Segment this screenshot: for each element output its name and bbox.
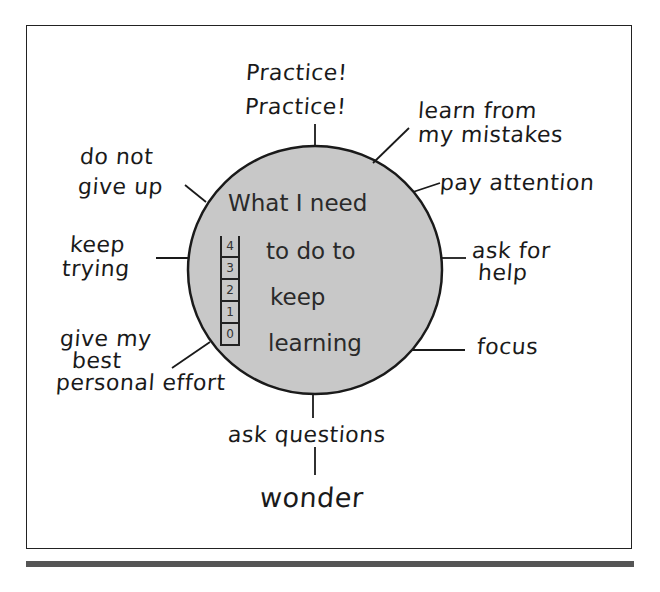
label-learn-2: my mistakes: [417, 124, 564, 146]
label-wonder: wonder: [259, 484, 364, 511]
spoke-line-give-best: [172, 342, 210, 368]
label-ask-help-2: help: [477, 262, 528, 284]
center-line-2: to do to: [266, 240, 355, 263]
center-line-4: learning: [268, 332, 362, 355]
ladder-step-1: 1: [220, 302, 240, 324]
ladder-step-3: 3: [220, 258, 240, 280]
label-keep-trying-1: keep: [69, 234, 126, 256]
label-learn-1: learn from: [417, 100, 537, 122]
label-ask-help-1: ask for: [471, 240, 551, 262]
label-give-best-3: personal effort: [55, 372, 226, 394]
label-practice-2: Practice!: [244, 96, 347, 118]
ladder-step-2: 2: [220, 280, 240, 302]
spoke-line-pay-attention: [413, 183, 440, 192]
label-focus: focus: [476, 336, 539, 358]
ladder-step-0: 0: [220, 324, 240, 346]
divider-bar: [26, 561, 634, 567]
label-give-best-2: best: [71, 350, 122, 372]
label-give-best-1: give my: [59, 328, 152, 350]
center-line-3: keep: [270, 286, 325, 309]
label-do-not-give-up-1: do not: [79, 146, 154, 168]
ladder-step-4: 4: [220, 236, 240, 258]
label-ask-questions: ask questions: [227, 424, 386, 446]
ladder-icon: 4 3 2 1 0: [220, 236, 240, 346]
center-line-1: What I need: [228, 192, 367, 215]
label-do-not-give-up-2: give up: [77, 176, 164, 198]
spoke-line-do-not-give-up: [185, 185, 206, 202]
label-keep-trying-2: trying: [61, 258, 130, 280]
spoke-line-learn: [373, 128, 409, 163]
label-pay-attention: pay attention: [439, 172, 595, 194]
label-practice-1: Practice!: [245, 62, 348, 84]
